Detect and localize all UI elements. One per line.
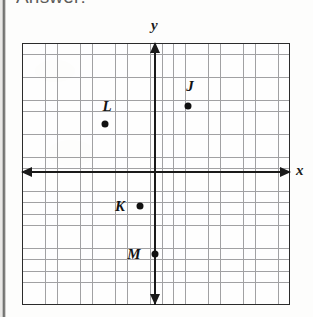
answer-heading-clip: Answer:: [16, 0, 156, 7]
y-axis-up-arrow-icon: [150, 42, 160, 53]
plot-point-label-k: K: [115, 199, 125, 214]
x-axis-label: x: [296, 163, 304, 178]
coordinate-plane: [22, 43, 290, 305]
plot-point-label-j: J: [186, 79, 194, 94]
answer-heading: Answer:: [16, 0, 156, 7]
y-axis-line: [154, 43, 156, 305]
book-binding-artifact: [2, 0, 6, 317]
plot-point-j: [185, 103, 192, 110]
plot-point-m: [152, 251, 159, 258]
x-axis-left-arrow-icon: [21, 167, 32, 177]
worksheet-page: Answer: y x JLKM: [0, 0, 313, 317]
plot-point-label-l: L: [102, 99, 111, 114]
plot-point-k: [137, 203, 144, 210]
plot-point-l: [102, 121, 109, 128]
x-axis-right-arrow-icon: [280, 167, 291, 177]
y-axis-label: y: [151, 18, 158, 33]
plot-point-label-m: M: [127, 247, 140, 262]
y-axis-down-arrow-icon: [150, 294, 160, 305]
